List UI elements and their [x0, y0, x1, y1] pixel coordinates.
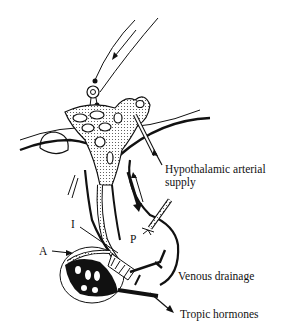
nerve-terminal-dot: [93, 79, 98, 84]
label-tropic-hormones: Tropic hormones: [180, 308, 258, 321]
label-I: I: [71, 218, 75, 231]
label-I-line: [80, 227, 118, 253]
label-venous-drainage: Venous drainage: [178, 270, 254, 283]
label-arterial-supply-2: supply: [165, 176, 196, 189]
label-P: P: [130, 233, 136, 246]
portal-system-diagram: Hypothalamic arterial supply I P A Venou…: [0, 0, 281, 335]
axon-arrow-icon: [115, 30, 136, 56]
tropic-arrow-icon: [150, 293, 170, 310]
label-A: A: [39, 245, 47, 258]
label-arterial-supply-1: Hypothalamic arterial: [165, 163, 266, 176]
neuron-axon-tract: [95, 18, 158, 92]
neuron-cell-body: [87, 86, 99, 98]
